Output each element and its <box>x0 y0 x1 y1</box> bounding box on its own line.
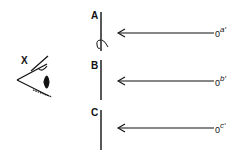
eye-label: X <box>21 56 28 66</box>
source-a: 0a′ <box>215 27 226 39</box>
screen-a-label: A <box>91 11 98 21</box>
diagram-canvas <box>0 0 250 156</box>
arrow-c <box>118 124 214 132</box>
source-a-sup: a′ <box>220 25 226 34</box>
source-b-sup: b′ <box>220 74 226 83</box>
source-b: 0b′ <box>215 76 226 88</box>
hook-icon <box>97 40 108 49</box>
arrow-b <box>118 77 214 85</box>
screen-c-label: C <box>91 108 98 118</box>
screen-b-label: B <box>91 61 98 71</box>
arrow-a <box>118 29 214 37</box>
source-c: 0c′ <box>215 123 226 135</box>
source-c-sup: c′ <box>220 121 226 130</box>
